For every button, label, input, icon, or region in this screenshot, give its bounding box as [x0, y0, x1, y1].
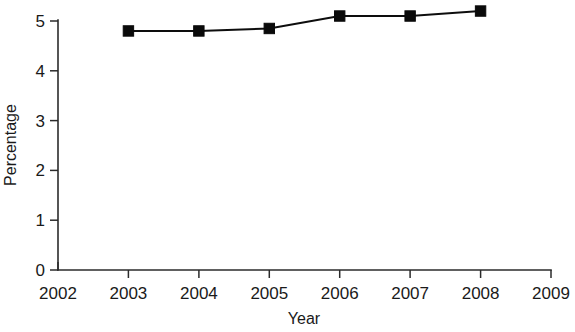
x-tick-label-2004: 2004	[180, 284, 218, 303]
x-tick-label-2009: 2009	[532, 284, 570, 303]
y-tick-label-4: 4	[36, 62, 45, 81]
y-tick-label-0: 0	[36, 261, 45, 280]
y-tick-label-3: 3	[36, 112, 45, 131]
data-series-line	[128, 11, 480, 31]
x-tick-label-2006: 2006	[321, 284, 359, 303]
x-axis-title: Year	[288, 310, 321, 327]
x-tick-label-2007: 2007	[391, 284, 429, 303]
y-tick-label-2: 2	[36, 161, 45, 180]
data-point-2008	[475, 6, 485, 16]
y-axis-tick-labels: 0 1 2 3 4 5	[36, 12, 45, 280]
x-axis-tick-labels: 2002 2003 2004 2005 2006 2007 2008 2009	[39, 284, 570, 303]
chart-container: 0 1 2 3 4 5 2002 2003 2004 2005 2006 200…	[0, 0, 575, 332]
data-point-2004	[194, 26, 204, 36]
y-axis-title: Percentage	[2, 104, 19, 186]
line-chart: 0 1 2 3 4 5 2002 2003 2004 2005 2006 200…	[0, 0, 575, 332]
x-tick-label-2002: 2002	[39, 284, 77, 303]
data-point-2006	[335, 11, 345, 21]
x-tick-label-2005: 2005	[250, 284, 288, 303]
x-tick-label-2003: 2003	[109, 284, 147, 303]
y-tick-label-1: 1	[36, 211, 45, 230]
x-tick-label-2008: 2008	[462, 284, 500, 303]
y-tick-label-5: 5	[36, 12, 45, 31]
data-point-2003	[123, 26, 133, 36]
y-axis-ticks	[50, 21, 58, 270]
data-point-2007	[405, 11, 415, 21]
data-point-2005	[264, 23, 274, 33]
